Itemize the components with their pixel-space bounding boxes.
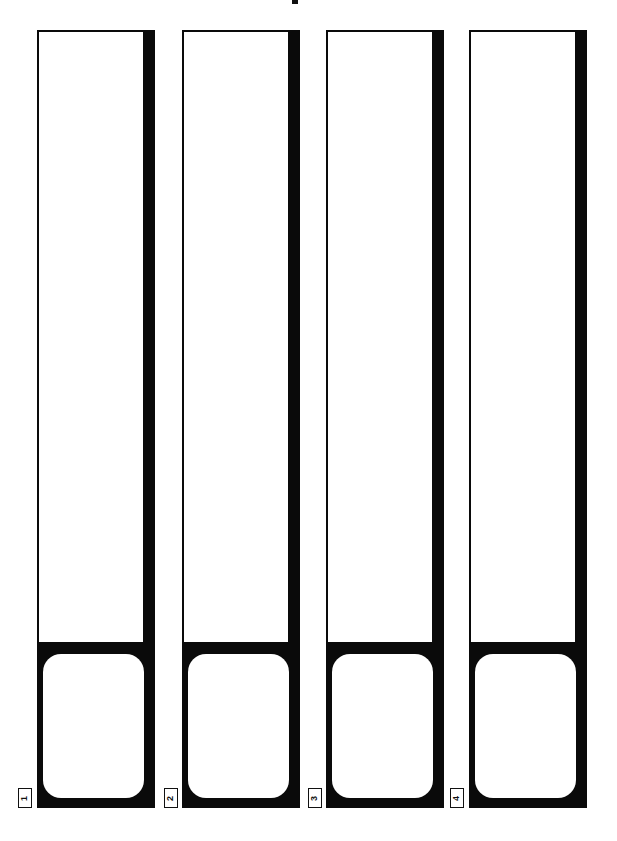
rounded-window <box>475 654 576 798</box>
rounded-window <box>188 654 289 798</box>
strip-number: 4 <box>452 795 461 800</box>
strip-3 <box>326 30 444 808</box>
crop-mark <box>292 0 298 4</box>
strip-number: 1 <box>20 795 29 800</box>
strip-1 <box>37 30 155 808</box>
rounded-window <box>332 654 433 798</box>
tall-panel <box>470 31 576 643</box>
tall-panel <box>38 31 144 643</box>
tall-panel <box>183 31 289 643</box>
strip-number-badge-3: 3 <box>308 788 322 808</box>
strip-number-badge-1: 1 <box>18 788 32 808</box>
strip-number: 3 <box>310 795 319 800</box>
strip-number-badge-2: 2 <box>164 788 178 808</box>
rounded-window <box>43 654 144 798</box>
strip-2 <box>182 30 300 808</box>
tall-panel <box>327 31 433 643</box>
strip-number-badge-4: 4 <box>450 788 464 808</box>
strip-4 <box>469 30 587 808</box>
strip-number: 2 <box>166 795 175 800</box>
